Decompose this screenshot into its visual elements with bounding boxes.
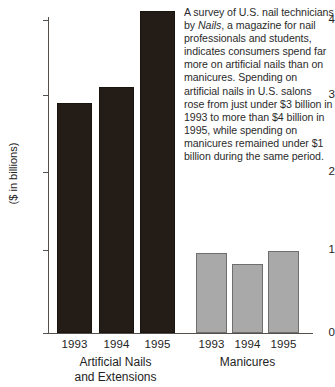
bar-chart-figure: A survey of U.S. nail technicians by Nai…: [0, 0, 335, 387]
group-label-artificial-nails-line1: Artificial Nails: [48, 355, 183, 370]
bar-artificial-nails-1994: [99, 87, 134, 333]
y-tick-label-0: 0: [297, 327, 335, 339]
x-tick-label-artificial-1993: 1993: [52, 338, 97, 351]
y-tick-label-1: 1: [297, 244, 335, 256]
x-tick-label-artificial-1995: 1995: [135, 338, 180, 351]
y-tick-mark-0: [43, 333, 48, 334]
group-label-artificial-nails-line2: and Extensions: [48, 370, 183, 385]
group-label-manicures: Manicures: [190, 355, 305, 370]
y-tick-mark-1: [43, 250, 48, 251]
bar-manicures-1995: [268, 251, 299, 333]
y-tick-label-3: 3: [297, 89, 335, 101]
bar-artificial-nails-1993: [57, 103, 92, 333]
y-tick-label-4: 4: [297, 14, 335, 26]
y-axis-line: [48, 17, 49, 334]
y-tick-mark-3: [43, 95, 48, 96]
x-tick-label-artificial-1994: 1994: [94, 338, 139, 351]
y-axis-title: ($ in billions): [8, 119, 19, 229]
caption-magazine-name: Nails: [198, 19, 221, 31]
bar-manicures-1993: [196, 253, 227, 333]
bar-manicures-1994: [232, 264, 263, 333]
y-tick-label-2: 2: [297, 166, 335, 178]
x-axis-line: [48, 333, 313, 334]
chart-caption: A survey of U.S. nail technicians by Nai…: [184, 6, 334, 163]
bar-artificial-nails-1995: [140, 11, 175, 333]
y-tick-mark-4: [43, 20, 48, 21]
y-tick-mark-2: [43, 172, 48, 173]
x-tick-label-manicures-1995: 1995: [261, 338, 306, 351]
